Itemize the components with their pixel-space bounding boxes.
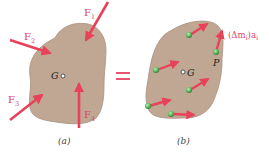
center-of-mass-label-b: G (187, 67, 195, 78)
particle-p (213, 49, 219, 55)
center-of-mass-marker-b (181, 70, 185, 74)
particle (186, 32, 192, 38)
center-of-mass-label-a: G (51, 70, 59, 81)
particle (168, 111, 174, 117)
equals-sign (116, 72, 130, 80)
label-f1: F1 (84, 7, 95, 21)
label-f2: F2 (24, 31, 35, 45)
particle (186, 87, 192, 93)
inertia-label: (Δmi)ai (228, 30, 258, 42)
particle (153, 67, 159, 73)
rigid-body-diagram: F1 F2 F3 F4 G (a) G P (Δmi) (0, 0, 269, 154)
panel-a: F1 F2 F3 F4 G (a) (8, 2, 108, 146)
panel-b: G P (Δmi)ai (b) (145, 21, 258, 146)
label-f3: F3 (8, 94, 19, 108)
rigid-body-shape (29, 23, 106, 123)
particle (145, 103, 151, 109)
caption-a: (a) (58, 136, 71, 146)
inertia-arrow (172, 114, 194, 115)
center-of-mass-marker-a (61, 74, 65, 78)
caption-b: (b) (177, 136, 190, 146)
point-label-p: P (212, 57, 220, 68)
